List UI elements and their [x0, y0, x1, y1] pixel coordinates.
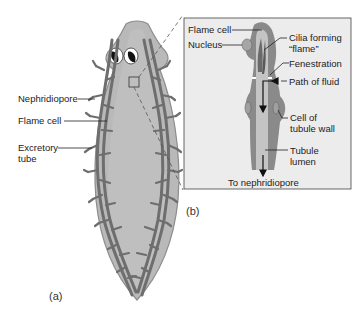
- label-cilia-line2: “flame”: [289, 43, 319, 54]
- label-nephridiopore: Nephridiopore: [18, 93, 78, 104]
- panel-letter-a: (a): [49, 290, 62, 302]
- label-cell-of-tubule-wall-line2: tubule wall: [290, 123, 335, 134]
- label-flame-cell-b: Flame cell: [188, 24, 231, 35]
- label-fenestration: Fenestration: [289, 58, 342, 69]
- label-flame-cell-a: Flame cell: [18, 115, 61, 126]
- label-path-of-fluid: Path of fluid: [289, 76, 339, 87]
- panel-letter-b: (b): [186, 205, 199, 217]
- label-excretory-tube-line2: tube: [18, 153, 37, 164]
- label-tubule-lumen-line2: lumen: [290, 156, 316, 167]
- label-to-nephridiopore: To nephridiopore: [228, 177, 299, 188]
- label-cilia-line1: Cilia forming: [289, 32, 342, 43]
- label-nucleus: Nucleus: [188, 39, 222, 50]
- label-excretory-tube-line1: Excretory: [18, 142, 58, 153]
- label-tubule-lumen-line1: Tubule: [290, 145, 319, 156]
- label-cell-of-tubule-wall-line1: Cell of: [290, 112, 317, 123]
